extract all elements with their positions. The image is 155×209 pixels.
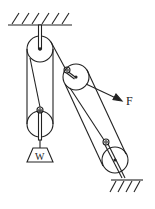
rope-right: [65, 70, 126, 166]
weight-label: W: [35, 151, 45, 162]
ceiling-support: [8, 13, 72, 25]
movable-pulley-left: [27, 107, 53, 148]
movable-pulley-right-upper: [63, 64, 89, 90]
force-label: F: [126, 94, 133, 108]
pull-force: [86, 84, 122, 101]
ground-support: [110, 180, 143, 192]
fixed-pulley-top: [27, 25, 53, 62]
pulley-diagram: F W: [0, 0, 155, 209]
fixed-pulley-right-lower: [102, 139, 128, 178]
